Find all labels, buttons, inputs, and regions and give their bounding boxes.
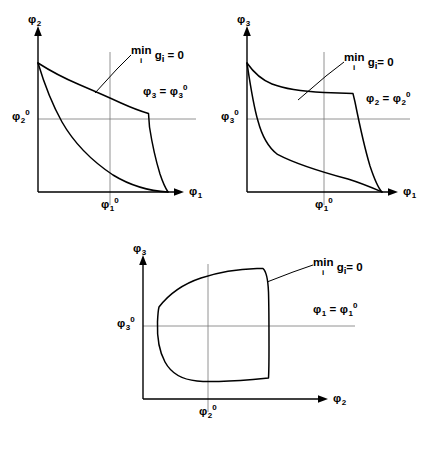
x-tick-label: φ20 xyxy=(199,406,217,418)
panel-phi2-phi3-plot xyxy=(107,232,428,457)
section-condition-label: φ2 = φ20 xyxy=(366,93,411,105)
y-tick-label: φ30 xyxy=(117,318,135,330)
constraint-boundary-annotation: mini gi= 0 xyxy=(313,257,363,279)
y-tick-label: φ30 xyxy=(221,111,239,123)
y-axis-label: φ2 xyxy=(28,14,41,26)
annotation-leader-line xyxy=(298,62,344,100)
x-axis-arrowhead xyxy=(388,188,398,196)
x-axis-label: φ1 xyxy=(403,186,416,198)
x-axis-arrowhead xyxy=(318,395,328,403)
x-axis-label: φ2 xyxy=(333,393,346,405)
lower-boundary-curve xyxy=(38,63,168,192)
section-condition-label: φ1 = φ10 xyxy=(313,304,358,316)
upper-boundary-curve xyxy=(247,63,382,192)
constraint-boundary-annotation: mini gi= 0 xyxy=(344,52,394,74)
y-axis-label: φ3 xyxy=(133,243,146,255)
x-axis-arrowhead xyxy=(174,188,184,196)
section-condition-label: φ3 = φ30 xyxy=(143,86,188,98)
constraint-boundary-annotation: mini gi = 0 xyxy=(131,45,184,67)
upper-boundary-curve xyxy=(38,63,168,192)
panel-phi1-phi3: φ3 φ1 φ30 φ10 mini gi= 0 φ2 = φ20 xyxy=(214,0,428,232)
annotation-leader-line xyxy=(267,265,313,282)
x-tick-label: φ10 xyxy=(315,199,333,211)
annotation-leader-line xyxy=(95,55,131,93)
figure-root: φ2 φ1 φ20 φ10 mini gi = 0 φ3 = φ30 xyxy=(0,0,428,457)
panel-phi2-phi3: φ3 φ2 φ30 φ20 mini gi= 0 φ1 = φ10 xyxy=(107,232,428,457)
y-axis-label: φ3 xyxy=(237,14,250,26)
x-tick-label: φ10 xyxy=(101,199,119,211)
x-axis-label: φ1 xyxy=(189,186,202,198)
closed-boundary-curve xyxy=(157,269,269,382)
y-tick-label: φ20 xyxy=(12,111,30,123)
panel-phi1-phi2: φ2 φ1 φ20 φ10 mini gi = 0 φ3 = φ30 xyxy=(0,0,214,232)
